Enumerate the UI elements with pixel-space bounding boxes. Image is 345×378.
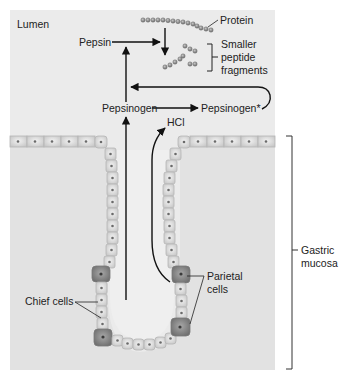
pepsin-label: Pepsin bbox=[79, 36, 111, 48]
gastric-label-2: mucosa bbox=[301, 257, 338, 269]
epithelium-surface-left bbox=[10, 136, 107, 148]
gastric-label-1: Gastric bbox=[301, 244, 334, 256]
protein-label: Protein bbox=[220, 14, 253, 26]
pepsinogen-label: Pepsinogen bbox=[102, 102, 158, 114]
mucosa-tissue bbox=[10, 138, 275, 370]
parietal-label-2: cells bbox=[207, 283, 228, 295]
gastric-pit-diagram: Lumen Protein Pepsin Smaller peptide fra… bbox=[0, 0, 345, 378]
fragments-label-3: fragments bbox=[221, 64, 268, 76]
chief-cells-label: Chief cells bbox=[25, 295, 73, 307]
lumen-label: Lumen bbox=[17, 18, 49, 30]
pepsinogen-star-label: Pepsinogen* bbox=[201, 102, 261, 114]
gastric-mucosa-bracket bbox=[286, 136, 298, 369]
epithelium-surface-right bbox=[178, 136, 275, 148]
fragments-label-2: peptide bbox=[221, 51, 256, 63]
fragments-label-1: Smaller bbox=[221, 38, 257, 50]
hcl-label: HCl bbox=[167, 116, 185, 128]
parietal-label-1: Parietal bbox=[207, 270, 243, 282]
